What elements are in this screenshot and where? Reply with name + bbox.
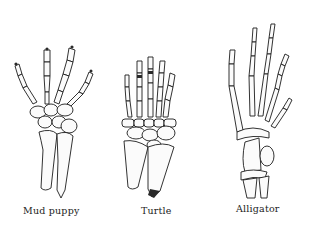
digit-3 [148,57,153,117]
carpals [237,128,274,180]
mud-puppy-skeleton-drawing [5,40,105,200]
digit-1 [229,50,243,132]
alligator-skeleton-drawing [225,20,305,200]
radius-bone [39,130,57,190]
alligator-forelimb-figure [225,20,305,200]
caption-alligator: Alligator [236,203,280,214]
turtle-forelimb-figure [120,55,200,200]
radius-bone [243,178,257,198]
turtle-skeleton-drawing [120,55,200,200]
digit-2 [249,28,257,116]
carpals [30,104,77,133]
ulna-bone [259,176,269,198]
caption-mud-puppy: Mud puppy [23,205,79,216]
digit-2 [137,61,142,117]
digit-1 [14,62,37,104]
digit-5 [163,73,175,117]
digit-2 [44,47,50,104]
digit-4 [67,70,93,107]
ulna-bone [57,132,73,198]
digit-1 [125,75,132,117]
mud-puppy-forelimb-figure [5,40,105,200]
caption-turtle: Turtle [141,205,172,216]
digit-3 [54,45,75,104]
radius-bone [124,141,148,189]
ulna-bone [148,144,174,197]
